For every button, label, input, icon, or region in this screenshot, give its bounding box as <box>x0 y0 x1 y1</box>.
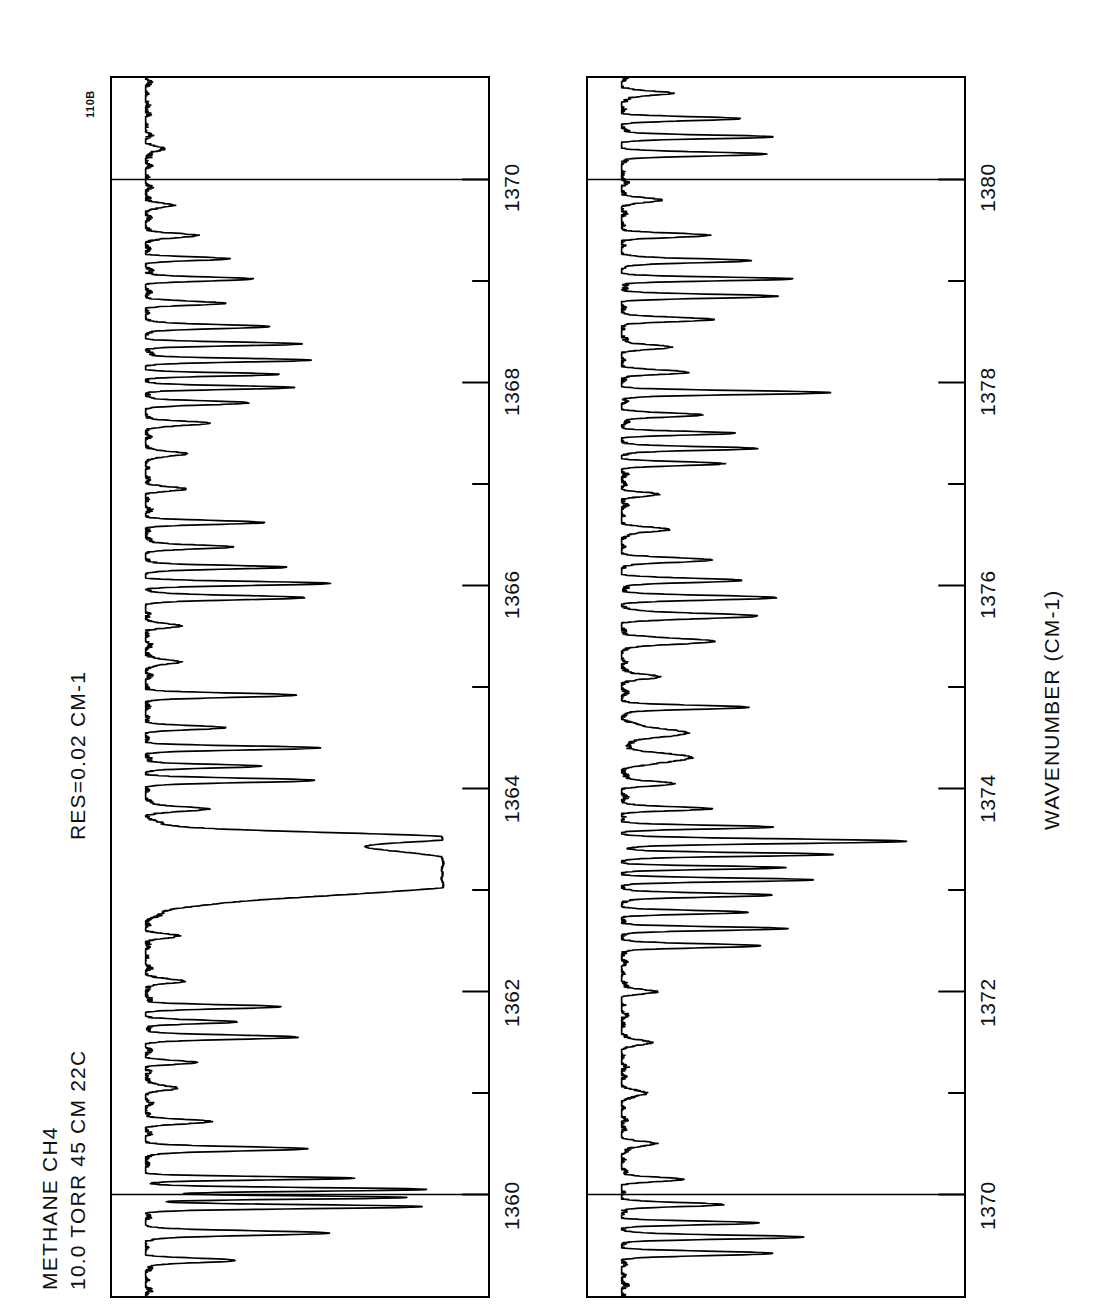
x-axis-title: WAVENUMBER (CM-1) <box>1040 590 1064 830</box>
axis-tick-label: 1368 <box>500 367 524 416</box>
figure-canvas: 110B METHANE CH4 10.0 TORR 45 CM 22C RES… <box>0 0 1097 1314</box>
spectrum-trace-lower <box>588 78 964 1296</box>
spectrum-line <box>146 78 444 1296</box>
resolution-label: RES=0.02 CM-1 <box>66 671 90 840</box>
axis-tick-label: 1380 <box>976 163 1000 212</box>
axis-tick-label: 1376 <box>976 570 1000 619</box>
spectrum-panel-upper[interactable] <box>110 76 490 1298</box>
axis-tick-label: 1372 <box>976 978 1000 1027</box>
axis-tick-label: 1362 <box>500 978 524 1027</box>
figure-id-tag: 110B <box>84 90 96 118</box>
axis-tick-label: 1378 <box>976 367 1000 416</box>
spectrum-trace-upper <box>112 78 488 1296</box>
axis-tick-label: 1364 <box>500 774 524 823</box>
axis-tick-label: 1370 <box>976 1181 1000 1230</box>
sample-name-label: METHANE CH4 <box>38 1126 62 1290</box>
axis-tick-label: 1366 <box>500 570 524 619</box>
axis-tick-label: 1360 <box>500 1181 524 1230</box>
spectrum-line <box>622 78 907 1296</box>
sample-conditions-label: 10.0 TORR 45 CM 22C <box>66 1050 90 1290</box>
axis-tick-label: 1374 <box>976 774 1000 823</box>
spectrum-panel-lower[interactable] <box>586 76 966 1298</box>
axis-tick-label: 1370 <box>500 163 524 212</box>
